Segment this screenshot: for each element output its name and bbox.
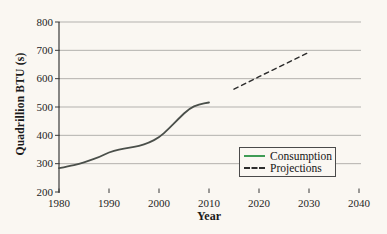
y-tick-label: 300 [37, 157, 54, 169]
x-tick-label: 2000 [148, 197, 171, 209]
legend-label-consumption: Consumption [270, 150, 332, 162]
legend-item-projections: Projections [244, 162, 332, 174]
projections-line-icon [244, 167, 265, 169]
x-tick-label: 2030 [298, 197, 321, 209]
y-tick-label: 400 [37, 129, 54, 141]
y-axis-title: Quadrillion BTU (s) [14, 53, 26, 156]
x-tick-label: 2010 [198, 197, 221, 209]
x-tick-label: 2020 [248, 197, 271, 209]
y-tick-label: 600 [37, 72, 54, 84]
y-tick-label: 200 [37, 186, 54, 198]
y-tick-label: 500 [37, 101, 54, 113]
projections-line [234, 52, 309, 89]
consumption-line-icon [244, 155, 265, 157]
x-tick-label: 2040 [348, 197, 371, 209]
chart-canvas: 2003004005006007008001980199020002010202… [0, 0, 387, 234]
legend-item-consumption: Consumption [244, 150, 332, 162]
legend: Consumption Projections [239, 147, 336, 177]
x-tick-label: 1990 [98, 197, 121, 209]
x-tick-label: 1980 [48, 197, 71, 209]
energy-consumption-chart: 2003004005006007008001980199020002010202… [0, 0, 387, 234]
y-tick-label: 700 [37, 44, 54, 56]
legend-label-projections: Projections [270, 162, 322, 174]
y-tick-label: 800 [37, 16, 54, 28]
x-axis-title: Year [59, 209, 359, 224]
